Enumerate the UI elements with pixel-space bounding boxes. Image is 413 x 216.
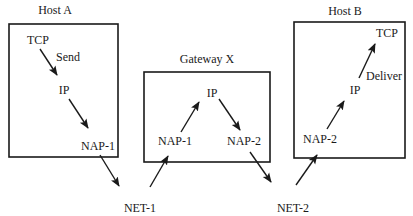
arrow-tcp-to-ip [40,49,57,75]
protocol-flow-diagram: Host A TCP Send IP NAP-1 NET-1 Gateway X… [0,0,413,216]
host-b-tcp: TCP [376,26,398,40]
host-b-title: Host B [328,4,362,18]
arrow-gateway-nap2-to-net2 [250,152,271,182]
host-b: Host B TCP Deliver IP NAP-2 [294,4,405,158]
host-a-ip: IP [59,83,70,97]
gateway-x-nap1: NAP-1 [158,134,192,148]
arrow-gateway-ip-to-nap2 [219,99,240,130]
gateway-x-nap2: NAP-2 [227,134,261,148]
gateway-x-title: Gateway X [180,52,235,66]
host-b-ip: IP [350,83,361,97]
arrow-hostb-nap2-to-ip [327,101,344,129]
gateway-x-ip: IP [207,86,218,100]
gateway-x: Gateway X IP NAP-1 NAP-2 [144,52,270,162]
arrow-ip-to-nap1 [69,99,88,128]
net-2-label: NET-2 [277,201,309,215]
net-1-label: NET-1 [124,201,156,215]
host-b-nap2: NAP-2 [303,132,337,146]
host-a-title: Host A [38,3,72,17]
host-a-tcp: TCP [27,33,49,47]
arrow-net2-to-hostb-nap2 [296,155,317,185]
host-a-nap1: NAP-1 [81,139,115,153]
arrow-gateway-nap1-to-ip [181,102,199,132]
host-a: Host A TCP Send IP NAP-1 [9,3,118,157]
arrow-net1-to-gateway-nap1 [150,156,168,187]
arrow-nap1-to-net1 [100,155,119,186]
host-b-deliver-label: Deliver [366,69,402,83]
host-a-send-label: Send [56,50,80,64]
